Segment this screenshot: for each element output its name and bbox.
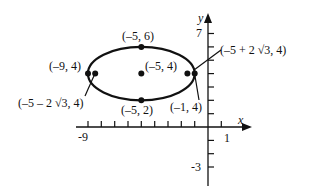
label-left-focus: (–5 – 2 √3, 4) xyxy=(18,97,84,109)
y-ticks xyxy=(208,34,214,168)
label-center: (–5, 4) xyxy=(145,60,177,72)
y-axis-label: y xyxy=(198,12,203,24)
y-axis-arrow-icon xyxy=(204,13,212,23)
y-tick-label-7: 7 xyxy=(196,27,202,39)
point-left-vertex xyxy=(85,71,91,77)
y-tick-label-neg3: -3 xyxy=(191,161,201,173)
label-right-vertex: (–1, 4) xyxy=(170,101,202,113)
right-vertex-leader xyxy=(195,76,199,100)
point-top xyxy=(138,44,144,50)
x-axis-arrow-icon xyxy=(242,123,252,131)
label-right-focus: (–5 + 2 √3, 4) xyxy=(220,44,286,56)
point-left-focus xyxy=(92,71,98,77)
point-center xyxy=(138,71,144,77)
x-axis-label: x xyxy=(238,114,243,126)
label-left-vertex: (–9, 4) xyxy=(49,60,81,72)
point-right-vertex xyxy=(192,71,198,77)
x-tick-label-1: 1 xyxy=(224,132,230,144)
point-right-focus xyxy=(184,71,190,77)
x-ticks xyxy=(88,121,221,127)
points xyxy=(85,44,198,103)
label-top: (–5, 6) xyxy=(122,30,154,42)
label-bottom: (–5, 2) xyxy=(121,104,153,116)
x-tick-label-neg9: -9 xyxy=(78,131,88,143)
